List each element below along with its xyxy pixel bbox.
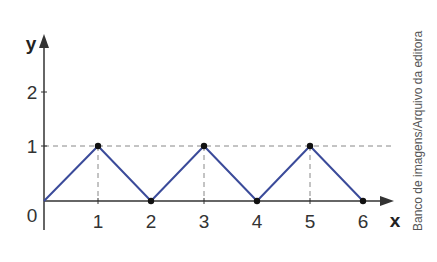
y-axis-arrow-icon — [39, 34, 49, 48]
x-tick-label: 5 — [305, 211, 316, 232]
y-axis-label: y — [26, 33, 37, 54]
x-tick-label: 1 — [93, 211, 104, 232]
x-tick-label: 4 — [252, 211, 263, 232]
image-credit: Banco de imagens/Arquivo da editora — [411, 31, 425, 231]
x-axis-label: x — [390, 210, 401, 231]
origin-label: 0 — [27, 205, 38, 226]
x-axis-arrow-icon — [380, 196, 394, 206]
y-tick-label: 2 — [27, 82, 38, 103]
x-tick-label: 3 — [199, 211, 210, 232]
y-tick-label: 1 — [27, 136, 38, 157]
chart: 1 2 3 4 5 6 1 2 0 x y Banco de imagens/A… — [0, 0, 437, 262]
x-tick-label: 6 — [358, 211, 369, 232]
x-tick-label: 2 — [146, 211, 157, 232]
